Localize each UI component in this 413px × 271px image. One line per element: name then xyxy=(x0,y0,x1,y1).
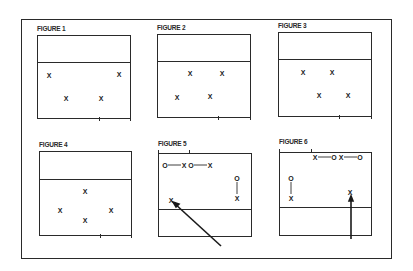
player-x: X xyxy=(339,154,344,161)
court-tick-mark xyxy=(158,150,159,154)
player-x: X xyxy=(317,92,322,99)
player-o: O xyxy=(331,154,336,161)
player-x: X xyxy=(348,189,353,196)
court-tick-mark xyxy=(311,149,312,153)
player-o: O xyxy=(234,175,239,182)
court-tick-mark xyxy=(218,116,219,120)
figure-6-label: FIGURE 6 xyxy=(279,138,307,145)
player-x: X xyxy=(169,197,174,204)
player-x: X xyxy=(188,70,193,77)
player-x: X xyxy=(235,195,240,202)
court-tick-mark xyxy=(279,149,280,153)
figure-5-label: FIGURE 5 xyxy=(158,140,186,147)
player-x: X xyxy=(175,94,180,101)
player-x: X xyxy=(83,188,88,195)
figure-3-label: FIGURE 3 xyxy=(278,22,306,29)
player-x: X xyxy=(330,69,335,76)
court-tick-mark xyxy=(99,117,100,121)
court-tick-mark xyxy=(189,150,190,154)
player-o: O xyxy=(188,162,193,169)
figure-2-label: FIGURE 2 xyxy=(157,24,185,31)
player-x: X xyxy=(47,72,52,79)
player-x: X xyxy=(64,95,69,102)
player-x: X xyxy=(208,162,213,169)
figure-1-label: FIGURE 1 xyxy=(37,25,65,32)
player-x: X xyxy=(208,93,213,100)
player-x: X xyxy=(99,95,104,102)
court-divider-line xyxy=(279,59,371,60)
player-o: O xyxy=(357,154,362,161)
court-divider-line xyxy=(38,62,130,63)
player-x: X xyxy=(289,195,294,202)
court-divider-line xyxy=(40,179,131,180)
court-divider-line xyxy=(158,61,250,62)
player-x: X xyxy=(58,207,63,214)
court-divider-line xyxy=(159,209,251,210)
player-o: O xyxy=(162,162,167,169)
court-tick-mark xyxy=(131,234,132,238)
player-x: X xyxy=(220,70,225,77)
court-tick-mark xyxy=(100,234,101,238)
court-tick-mark xyxy=(339,115,340,119)
figure-2-court xyxy=(157,34,251,118)
player-x: X xyxy=(83,217,88,224)
court-tick-mark xyxy=(250,116,251,120)
court-tick-mark xyxy=(371,115,372,119)
court-tick-mark xyxy=(130,117,131,121)
player-x: X xyxy=(117,71,122,78)
player-x: X xyxy=(346,92,351,99)
player-o: O xyxy=(288,175,293,182)
figure-3-court xyxy=(278,32,372,117)
player-x: X xyxy=(313,154,318,161)
court-divider-line xyxy=(280,207,371,208)
player-x: X xyxy=(109,207,114,214)
player-x: X xyxy=(301,69,306,76)
figure-4-label: FIGURE 4 xyxy=(39,141,67,148)
player-x: X xyxy=(182,162,187,169)
